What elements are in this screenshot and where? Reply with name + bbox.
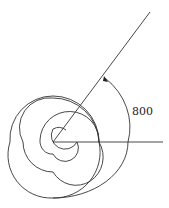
arrowhead-icon <box>103 76 108 82</box>
angle-diagram: 800 <box>0 0 169 208</box>
angle-label: 800 <box>132 105 153 118</box>
spiral-middle-loop <box>8 96 103 198</box>
terminal-side-ray <box>53 12 150 142</box>
